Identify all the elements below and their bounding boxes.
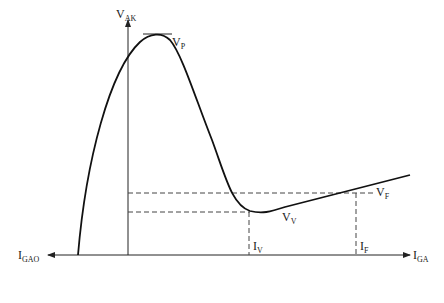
valley-current-label: IV [253,239,263,255]
valley-label: VV [282,210,297,226]
put-characteristic-diagram: VAK VP VV VF IV IF IGA IGAO [0,0,444,303]
forward-current-label: IF [360,239,369,255]
y-axis-label: VAK [116,7,136,23]
x-axis-label: IGA [413,248,429,264]
forward-voltage-label: VF [376,185,390,201]
x-axis-negative-label: IGAO [18,248,40,264]
peak-label: VP [172,35,186,51]
